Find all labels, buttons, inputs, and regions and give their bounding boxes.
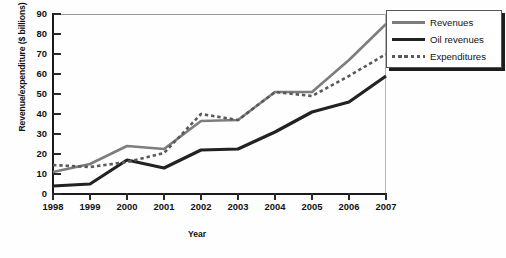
plot-top-border (53, 14, 387, 15)
series-line-revenues (53, 24, 386, 172)
x-axis-title: Year (0, 229, 394, 239)
x-tick-label: 2007 (366, 201, 406, 212)
y-tick-label: 30 (23, 128, 47, 139)
y-tick-label: 10 (23, 168, 47, 179)
x-tick-label: 1998 (33, 201, 73, 212)
y-tick (53, 13, 61, 15)
legend-label-oil-revenues: Oil revenues (430, 34, 484, 45)
y-tick (53, 53, 61, 55)
x-tick-label: 1999 (70, 201, 110, 212)
y-tick (53, 193, 61, 195)
series-line-expenditures (53, 54, 386, 167)
y-tick (53, 173, 61, 175)
y-tick-label: 20 (23, 148, 47, 159)
legend-swatch-expenditures-icon (392, 50, 425, 62)
x-tick-label: 2001 (144, 201, 184, 212)
y-tick-label: 70 (23, 48, 47, 59)
y-tick-label: 80 (23, 28, 47, 39)
y-tick-label: 50 (23, 88, 47, 99)
y-axis-line (52, 13, 54, 195)
legend-swatch-revenues-icon (392, 16, 425, 28)
x-axis-line (53, 193, 387, 195)
legend-item-revenues: Revenues (392, 14, 473, 30)
x-tick (52, 193, 54, 200)
x-tick (89, 193, 91, 200)
x-tick (200, 193, 202, 200)
y-tick (53, 113, 61, 115)
x-tick (237, 193, 239, 200)
x-tick (163, 193, 165, 200)
y-tick (53, 73, 61, 75)
legend-label-expenditures: Expenditures (430, 51, 486, 62)
x-tick (274, 193, 276, 200)
legend-swatch-oil-revenues-icon (392, 33, 425, 45)
y-tick-label: 60 (23, 68, 47, 79)
x-tick (348, 193, 350, 200)
x-tick (385, 193, 387, 200)
y-tick (53, 33, 61, 35)
y-tick (53, 153, 61, 155)
x-tick (126, 193, 128, 200)
x-tick-label: 2000 (107, 201, 147, 212)
chart-legend: Revenues Oil revenues Expenditures (386, 10, 502, 68)
x-tick-label: 2003 (218, 201, 258, 212)
legend-label-revenues: Revenues (430, 17, 473, 28)
y-tick-label: 90 (23, 8, 47, 19)
x-tick-label: 2005 (292, 201, 332, 212)
x-tick (311, 193, 313, 200)
x-tick-label: 2004 (255, 201, 295, 212)
y-tick-label: 0 (23, 188, 47, 199)
series-line-oil-revenues (53, 76, 386, 186)
y-tick (53, 93, 61, 95)
legend-item-expenditures: Expenditures (392, 48, 486, 64)
x-tick-label: 2002 (181, 201, 221, 212)
y-tick (53, 133, 61, 135)
legend-item-oil-revenues: Oil revenues (392, 31, 484, 47)
x-tick-label: 2006 (329, 201, 369, 212)
y-tick-label: 40 (23, 108, 47, 119)
chart-figure: Revenue/expenditure ($ billions) Year 01… (0, 0, 506, 258)
